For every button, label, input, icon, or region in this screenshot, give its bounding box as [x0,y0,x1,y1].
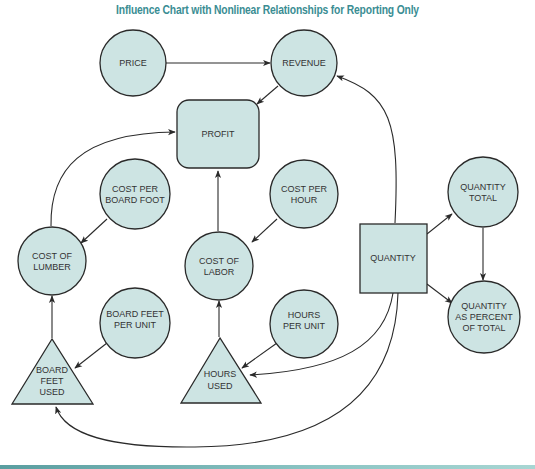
node-label: AS PERCENT [455,312,513,322]
node-cost-per-hour: COST PER HOUR [270,160,338,228]
node-cost-of-labor: COST OF LABOR [185,232,253,300]
node-label: USED [207,381,233,391]
node-label: BOARD FEET [106,309,164,319]
node-label: USED [39,387,65,397]
edge-quantity-quantitytotal [427,214,452,234]
node-revenue: REVENUE [271,30,337,96]
node-label: LABOR [204,267,235,277]
node-label: COST OF [32,251,72,261]
edge-revenue-profit [257,86,278,104]
node-board-feet-per-unit: BOARD FEET PER UNIT [100,288,170,358]
bottom-divider [0,465,535,469]
node-cost-per-board-foot: COST PER BOARD FOOT [100,159,170,229]
influence-diagram: PRICE REVENUE PROFIT COST PER BOARD FOOT… [0,0,535,469]
node-label: TOTAL [469,193,497,203]
edge-costperboardfoot-lumber [81,219,107,243]
node-label: PRICE [119,58,147,68]
node-label: OF TOTAL [462,323,505,333]
node-board-feet-used: BOARD FEET USED [12,339,93,404]
node-label: REVENUE [282,58,326,68]
node-profit: PROFIT [177,100,259,168]
node-label: COST PER [281,184,327,194]
node-label: PER UNIT [114,320,157,330]
node-label: QUANTITY [461,301,507,311]
node-label: COST PER [112,184,158,194]
node-price: PRICE [100,30,166,96]
node-label: COST OF [199,256,239,266]
edge-hoursperunit-hoursused [242,343,277,368]
node-quantity: QUANTITY [360,224,427,293]
node-label: HOURS [204,369,237,379]
edge-quantity-revenue [337,76,396,223]
node-label: HOURS [288,310,321,320]
node-quantity-as-percent-of-total: QUANTITY AS PERCENT OF TOTAL [448,281,520,353]
edge-costperhour-labor [252,219,277,242]
node-cost-of-lumber: COST OF LUMBER [18,227,86,295]
node-label: BOARD FOOT [105,195,165,205]
node-hours-used: HOURS USED [181,338,261,403]
node-label: BOARD [36,365,69,375]
node-label: FEET [40,376,64,386]
node-label: PROFIT [202,129,236,139]
node-label: QUANTITY [370,253,416,263]
node-label: PER UNIT [283,321,326,331]
edge-quantity-quantitypercent [427,284,452,303]
node-label: LUMBER [33,262,71,272]
node-quantity-total: QUANTITY TOTAL [448,157,518,227]
node-label: HOUR [291,195,318,205]
node-hours-per-unit: HOURS PER UNIT [270,290,338,358]
node-label: QUANTITY [460,182,506,192]
edge-boardfeetperunit-boardfeetused [75,343,107,368]
